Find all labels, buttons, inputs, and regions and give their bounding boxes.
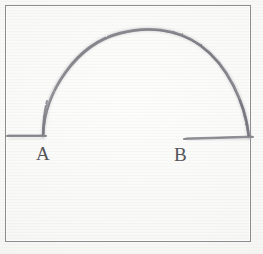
point-label-b: B <box>174 145 187 164</box>
semicircle-arc <box>43 29 249 137</box>
figure-root: A B <box>0 0 263 254</box>
baseline-smudge <box>9 138 251 140</box>
left-baseline-segment <box>7 135 46 136</box>
arc-graphite-halo <box>43 29 249 137</box>
pencil-drawing <box>0 0 263 254</box>
point-label-a: A <box>36 144 50 163</box>
